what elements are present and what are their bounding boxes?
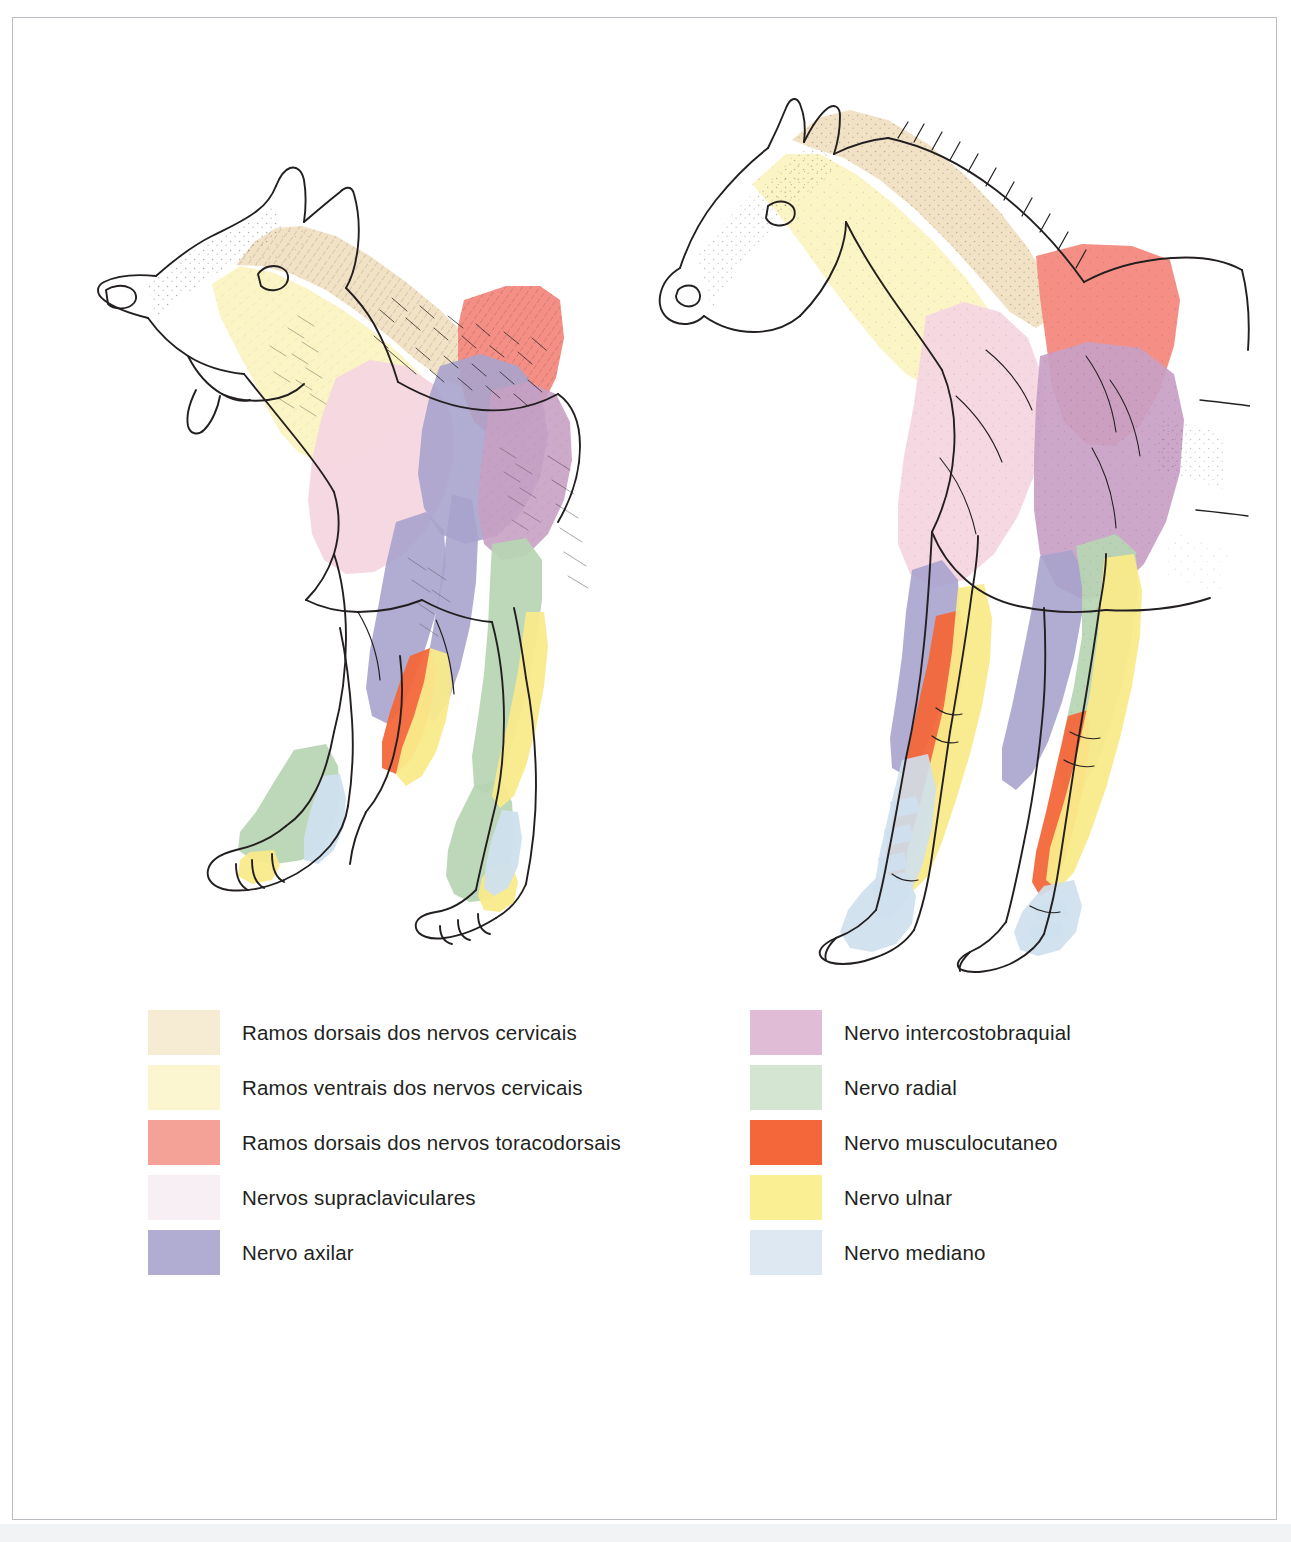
legend-swatch-nervo-axilar xyxy=(148,1230,220,1275)
legend-item-nervos-supraclaviculares[interactable]: Nervos supraclaviculares xyxy=(148,1170,708,1225)
legend-label-ramos-ventrais-cervicais: Ramos ventrais dos nervos cervicais xyxy=(242,1076,583,1100)
legend-label-ramos-dorsais-cervicais: Ramos dorsais dos nervos cervicais xyxy=(242,1021,577,1045)
legend-item-ramos-dorsais-toracodorsais[interactable]: Ramos dorsais dos nervos toracodorsais xyxy=(148,1115,708,1170)
legend-item-nervo-intercostobraquial[interactable]: Nervo intercostobraquial xyxy=(750,1005,1270,1060)
dog-region-nervo-intercostobraquial-hatch xyxy=(478,382,572,560)
legend-item-ramos-dorsais-cervicais[interactable]: Ramos dorsais dos nervos cervicais xyxy=(148,1005,708,1060)
legend-swatch-nervo-musculocutaneo xyxy=(750,1120,822,1165)
legend-swatch-ramos-dorsais-cervicais xyxy=(148,1010,220,1055)
page-canvas: Ramos dorsais dos nervos cervicais Ramos… xyxy=(0,0,1291,1542)
legend-label-nervo-axilar: Nervo axilar xyxy=(242,1241,354,1265)
legend-label-nervo-radial: Nervo radial xyxy=(844,1076,957,1100)
legend-column-right: Nervo intercostobraquial Nervo radial Ne… xyxy=(750,1005,1270,1280)
legend-swatch-ramos-dorsais-toracodorsais xyxy=(148,1120,220,1165)
legend-label-nervo-musculocutaneo: Nervo musculocutaneo xyxy=(844,1131,1058,1155)
legend-swatch-ramos-ventrais-cervicais xyxy=(148,1065,220,1110)
legend-label-ramos-dorsais-toracodorsais: Ramos dorsais dos nervos toracodorsais xyxy=(242,1131,621,1155)
horse-illustration xyxy=(660,99,1250,972)
legend-item-nervo-ulnar[interactable]: Nervo ulnar xyxy=(750,1170,1270,1225)
legend-label-nervo-ulnar: Nervo ulnar xyxy=(844,1186,952,1210)
legend-item-nervo-axilar[interactable]: Nervo axilar xyxy=(148,1225,708,1280)
dog-illustration xyxy=(98,168,588,945)
legend-swatch-nervos-supraclaviculares xyxy=(148,1175,220,1220)
legend-swatch-nervo-mediano xyxy=(750,1230,822,1275)
legend: Ramos dorsais dos nervos cervicais Ramos… xyxy=(0,1005,1291,1305)
legend-swatch-nervo-intercostobraquial xyxy=(750,1010,822,1055)
legend-label-nervos-supraclaviculares: Nervos supraclaviculares xyxy=(242,1186,476,1210)
legend-item-nervo-musculocutaneo[interactable]: Nervo musculocutaneo xyxy=(750,1115,1270,1170)
nerve-distribution-figure xyxy=(40,60,1250,980)
legend-label-nervo-intercostobraquial: Nervo intercostobraquial xyxy=(844,1021,1071,1045)
legend-item-nervo-mediano[interactable]: Nervo mediano xyxy=(750,1225,1270,1280)
legend-column-left: Ramos dorsais dos nervos cervicais Ramos… xyxy=(148,1005,708,1280)
legend-swatch-nervo-ulnar xyxy=(750,1175,822,1220)
figure-illustration-area xyxy=(40,60,1250,980)
legend-item-ramos-ventrais-cervicais[interactable]: Ramos ventrais dos nervos cervicais xyxy=(148,1060,708,1115)
legend-swatch-nervo-radial xyxy=(750,1065,822,1110)
legend-label-nervo-mediano: Nervo mediano xyxy=(844,1241,986,1265)
page-bottom-band xyxy=(0,1524,1291,1542)
legend-item-nervo-radial[interactable]: Nervo radial xyxy=(750,1060,1270,1115)
